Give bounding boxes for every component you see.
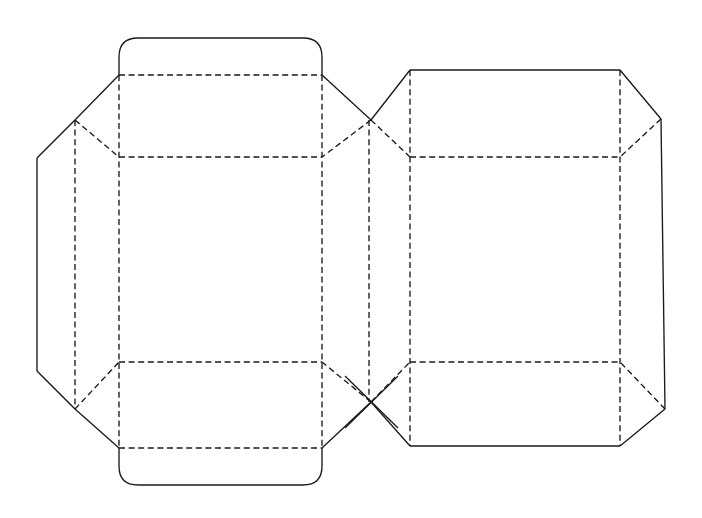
drawing-background	[0, 0, 702, 518]
dieline-drawing	[0, 0, 702, 518]
dieline-canvas	[0, 0, 702, 518]
